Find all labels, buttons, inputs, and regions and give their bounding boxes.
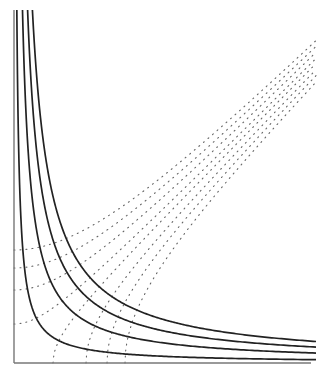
hyperbola-family — [17, 10, 316, 360]
hyperbola-curve-4 — [32, 10, 316, 341]
trajectory-right-1 — [53, 64, 316, 363]
trajectory-up-3 — [14, 46, 316, 268]
axes — [14, 10, 311, 363]
trajectory-right-3 — [107, 76, 316, 363]
hyperbola-curve-3 — [28, 10, 316, 347]
hyperbola-diagram — [0, 0, 327, 372]
orthogonal-trajectories — [14, 41, 316, 363]
trajectory-up-2 — [14, 52, 316, 290]
trajectory-up-1 — [14, 58, 316, 324]
hyperbola-curve-1 — [17, 10, 316, 360]
trajectory-right-4 — [125, 82, 316, 363]
trajectory-right-2 — [86, 70, 316, 363]
